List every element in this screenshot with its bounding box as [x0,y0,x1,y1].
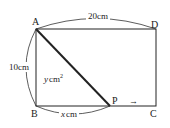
segment-ap [36,29,110,106]
rectangle-abcd [36,29,156,106]
area-label: ycm2 [43,73,63,84]
rectangle-diagram: 20cm 10cm xcm ycm2 A D B C P → [0,0,170,128]
bottom-length-label: xcm [60,109,77,119]
vertex-p-label: P [112,95,118,106]
vertex-c-label: C [150,108,157,119]
vertex-d-label: D [151,19,158,30]
top-length-label: 20cm [88,11,108,21]
vertex-a-label: A [32,16,40,27]
motion-arrow-icon: → [129,96,138,106]
left-length-label: 10cm [9,62,29,72]
vertex-b-label: B [31,108,38,119]
